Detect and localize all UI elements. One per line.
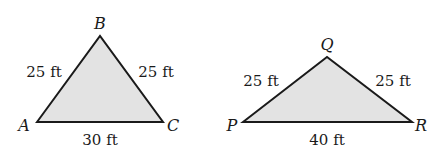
side-bc-label: 25 ft [138,63,173,81]
side-ac-label: 30 ft [82,131,117,149]
vertex-q-label: Q [320,35,333,54]
triangles-diagram: B A C 25 ft 25 ft 30 ft Q P R 25 ft 25 f… [0,0,443,164]
triangle-abc: B A C 25 ft 25 ft 30 ft [16,14,179,149]
side-ab-label: 25 ft [26,63,61,81]
side-pr-label: 40 ft [309,131,344,149]
vertex-b-label: B [93,14,106,33]
side-pq-label: 25 ft [243,72,278,90]
vertex-a-label: A [16,116,30,135]
vertex-r-label: R [414,116,427,135]
side-qr-label: 25 ft [375,72,410,90]
vertex-c-label: C [167,116,179,135]
vertex-p-label: P [226,116,238,135]
triangle-pqr: Q P R 25 ft 25 ft 40 ft [226,35,427,149]
